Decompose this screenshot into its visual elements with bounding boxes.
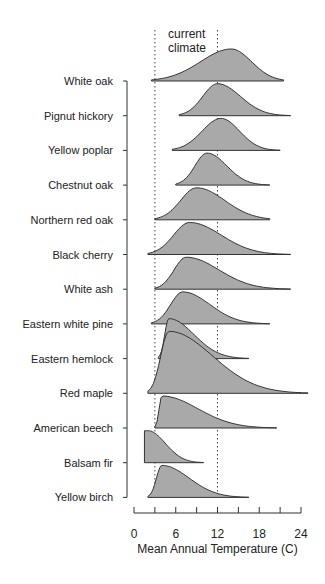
species-label: Yellow birch xyxy=(55,491,113,503)
species-label: Balsam fir xyxy=(64,457,113,469)
density-ridge xyxy=(172,118,280,150)
species-label: Yellow poplar xyxy=(48,144,113,156)
species-label: Red maple xyxy=(60,387,113,399)
density-ridge xyxy=(144,431,203,463)
density-ridge xyxy=(155,396,277,428)
density-ridge xyxy=(148,223,291,255)
x-tick-label: 18 xyxy=(253,527,267,541)
x-tick-label: 12 xyxy=(211,527,225,541)
x-tick-label: 0 xyxy=(131,527,138,541)
x-axis-label: Mean Annual Temperature (C) xyxy=(137,542,298,556)
density-ridge xyxy=(155,257,291,289)
x-tick-label: 24 xyxy=(294,527,308,541)
species-label: Eastern hemlock xyxy=(31,353,113,365)
species-label: Black cherry xyxy=(52,249,113,261)
species-label: White ash xyxy=(64,283,113,295)
density-ridge xyxy=(179,84,290,116)
density-ridge xyxy=(148,465,249,497)
species-label: Chestnut oak xyxy=(48,179,113,191)
species-label: Pignut hickory xyxy=(44,110,114,122)
species-label: Northern red oak xyxy=(30,214,113,226)
species-label: White oak xyxy=(64,75,113,87)
annotation-text: current xyxy=(168,27,206,41)
density-ridge xyxy=(176,153,270,185)
density-ridge xyxy=(155,188,270,220)
species-label: American beech xyxy=(34,422,114,434)
density-ridge xyxy=(148,331,308,393)
annotation-text: climate xyxy=(168,41,206,55)
species-label: Eastern white pine xyxy=(23,318,114,330)
ridgeline-chart: currentclimateWhite oakPignut hickoryYel… xyxy=(0,0,325,584)
x-tick-label: 6 xyxy=(172,527,179,541)
